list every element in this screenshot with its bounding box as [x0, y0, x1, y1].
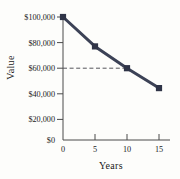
data-point-year-10	[124, 65, 130, 71]
data-point-year-5	[92, 43, 98, 49]
y-tick-label-20000: $20,000	[28, 115, 55, 124]
x-axis-title: Years	[63, 160, 159, 171]
y-axis-tick-labels: $100,000 $80,000 $60,000 $40,000 $20,000…	[24, 13, 55, 145]
y-tick-label-100000: $100,000	[24, 13, 55, 22]
x-tick-label-5: 5	[93, 145, 97, 154]
chart-plot-area: $100,000 $80,000 $60,000 $40,000 $20,000…	[0, 0, 180, 179]
x-tick-label-10: 10	[123, 145, 131, 154]
y-tick-label-0: $0	[47, 136, 55, 145]
value-series-line	[63, 17, 159, 88]
y-tick-label-40000: $40,000	[28, 90, 55, 99]
y-tick-label-60000: $60,000	[28, 64, 55, 73]
value-depreciation-chart: $100,000 $80,000 $60,000 $40,000 $20,000…	[0, 0, 180, 179]
data-point-year-0	[60, 14, 66, 20]
x-tick-label-0: 0	[61, 145, 65, 154]
x-axis-tick-labels: 0 5 10 15	[61, 145, 163, 154]
data-point-year-15	[156, 85, 162, 91]
y-axis-ticks	[57, 17, 63, 119]
x-axis-ticks	[95, 134, 159, 140]
y-tick-label-80000: $80,000	[28, 39, 55, 48]
x-tick-label-15: 15	[155, 145, 163, 154]
y-axis-title: Value	[5, 44, 16, 92]
